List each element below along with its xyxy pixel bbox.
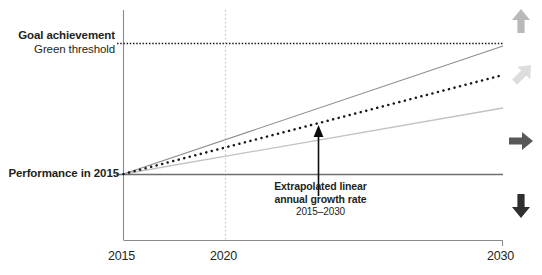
green-threshold-subtitle: Green threshold — [0, 43, 115, 57]
callout-arrow-head — [314, 125, 324, 137]
upper-trajectory-line — [124, 46, 504, 174]
extrapolated-growth-line — [124, 75, 504, 174]
performance-2015-label: Performance in 2015 — [0, 167, 119, 181]
extrapolated-growth-annotation: Extrapolated linear annual growth rate 2… — [248, 180, 393, 218]
annotation-line-2: annual growth rate — [248, 193, 393, 206]
x-tick-label-2020: 2020 — [210, 249, 237, 263]
chart-figure: Goal achievement Green threshold Perform… — [0, 0, 542, 275]
arrow-down-icon — [505, 190, 537, 222]
arrow-up-right-icon — [505, 60, 537, 92]
arrow-right-icon — [505, 125, 537, 157]
annotation-years: 2015–2030 — [248, 206, 393, 218]
arrow-up-icon — [505, 5, 537, 37]
performance-2015-text: Performance in 2015 — [0, 167, 119, 181]
x-tick-label-2030: 2030 — [487, 249, 514, 263]
goal-achievement-title: Goal achievement — [0, 29, 115, 43]
lower-trajectory-line — [124, 108, 504, 174]
x-tick-label-2015: 2015 — [108, 249, 135, 263]
annotation-line-1: Extrapolated linear — [248, 180, 393, 193]
goal-achievement-label: Goal achievement Green threshold — [0, 29, 115, 56]
